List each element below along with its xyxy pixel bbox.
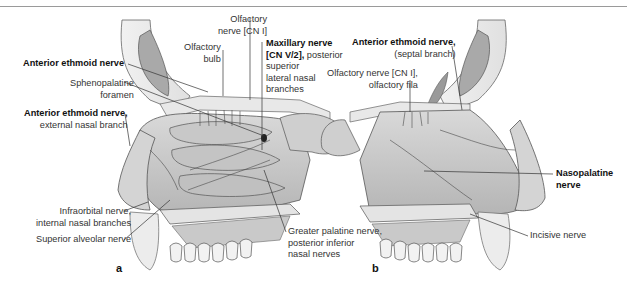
label-olfactory-bulb: Olfactory bulb xyxy=(184,42,221,65)
label-text: internal nasal branches xyxy=(36,218,131,230)
label-text: Anterior ethmoid nerve xyxy=(23,58,124,68)
label-text: Anterior ethmoid nerve, xyxy=(352,37,456,47)
label-anterior-ethmoid-septal-branch: Anterior ethmoid nerve, (septal branch) xyxy=(352,37,456,60)
label-text: nerve [CN I] xyxy=(218,26,267,38)
label-anterior-ethmoid-nerve: Anterior ethmoid nerve xyxy=(23,58,124,70)
label-text: olfactory fila xyxy=(327,80,418,92)
label-text: Olfactory xyxy=(218,14,267,26)
label-text: nerve xyxy=(556,180,581,190)
label-text: bulb xyxy=(184,54,221,66)
label-text: Anterior ethmoid nerve, xyxy=(24,108,128,118)
label-infraorbital-nerve: Infraorbital nerve, internal nasal branc… xyxy=(36,206,131,229)
label-text: posterior xyxy=(304,50,342,60)
label-olfactory-nerve: Olfactory nerve [CN I] xyxy=(218,14,267,37)
label-anterior-ethmoid-external-branch: Anterior ethmoid nerve, external nasal b… xyxy=(24,108,128,131)
label-text: Maxillary nerve xyxy=(266,38,332,48)
label-incisive-nerve: Incisive nerve xyxy=(530,230,586,242)
label-text: nasal nerves xyxy=(288,249,382,261)
label-greater-palatine-nerve: Greater palatine nerve, posterior inferi… xyxy=(288,226,382,261)
label-text: Sphenopalatine xyxy=(70,78,134,90)
panel-label-a: a xyxy=(116,262,122,274)
label-text: Olfactory xyxy=(184,42,221,54)
panel-label-b: b xyxy=(372,262,379,274)
label-text: posterior inferior xyxy=(288,238,382,250)
label-nasopalatine-nerve: Nasopalatine nerve xyxy=(556,168,613,191)
label-sphenopalatine-foramen: Sphenopalatine foramen xyxy=(70,78,134,101)
label-text: external nasal branch xyxy=(24,120,128,132)
label-text: (septal branch) xyxy=(352,49,456,61)
label-text: Nasopalatine xyxy=(556,168,613,178)
label-text: [CN V/2], xyxy=(266,50,304,60)
label-olfactory-fila: Olfactory nerve [CN I], olfactory fila xyxy=(327,68,418,91)
label-text: Olfactory nerve [CN I], xyxy=(327,68,418,80)
label-text: Greater palatine nerve, xyxy=(288,226,382,238)
label-text: Incisive nerve xyxy=(530,230,586,242)
label-superior-alveolar-nerve: Superior alveolar nerve xyxy=(36,234,131,246)
label-text: Superior alveolar nerve xyxy=(36,234,131,246)
label-text: Infraorbital nerve, xyxy=(36,206,131,218)
label-text: foramen xyxy=(70,90,134,102)
